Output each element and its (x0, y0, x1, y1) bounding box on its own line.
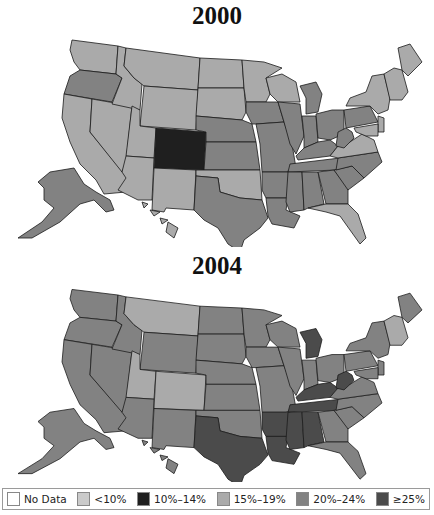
state-mi (300, 82, 322, 114)
legend-label: ≥25% (393, 493, 425, 505)
state-wa (70, 40, 118, 74)
state-ms (286, 412, 304, 449)
state-ky (296, 140, 338, 160)
state-nd (198, 58, 244, 88)
state-nj (378, 360, 384, 375)
us-map-2004 (0, 282, 434, 482)
state-nj (378, 116, 384, 132)
legend-swatch (217, 492, 230, 506)
state-fl (308, 204, 366, 244)
us-map-2000 (0, 32, 434, 247)
legend-label: <10% (94, 493, 126, 505)
state-wy (140, 332, 198, 373)
state-wi (266, 321, 300, 347)
legend-swatch (7, 492, 20, 506)
legend-item-ge25: ≥25% (376, 492, 425, 506)
map-title-2000: 2000 (0, 2, 434, 30)
legend-item-20-24: 20%–24% (296, 492, 365, 506)
legend-swatch (296, 492, 309, 506)
state-fl (308, 442, 366, 479)
legend-item-10-14: 10%–14% (137, 492, 206, 506)
state-co (154, 128, 206, 170)
legend-label: No Data (24, 493, 67, 505)
legend-swatch (77, 492, 90, 506)
legend-item-no-data: No Data (7, 492, 67, 506)
legend-item-lt10: <10% (77, 492, 126, 506)
state-wy (140, 86, 198, 130)
state-ia (246, 347, 284, 367)
state-ks (204, 384, 260, 410)
legend-label: 10%–14% (154, 493, 206, 505)
state-sd (196, 88, 246, 120)
legend-item-15-19: 15%–19% (217, 492, 286, 506)
legend-label: 20%–24% (313, 493, 365, 505)
state-nm (152, 409, 196, 450)
state-co (154, 371, 206, 410)
map-title-2004: 2004 (0, 252, 434, 280)
map-legend: No Data <10% 10%–14% 15%–19% 20%–24% ≥25… (2, 488, 430, 510)
state-ms (286, 172, 304, 212)
state-wi (266, 74, 300, 102)
state-sd (196, 334, 246, 364)
state-ar (262, 172, 290, 198)
state-ky (296, 382, 338, 401)
state-nm (152, 168, 196, 212)
legend-label: 15%–19% (234, 493, 286, 505)
legend-swatch (137, 492, 150, 506)
state-nd (198, 306, 244, 334)
state-ia (246, 102, 284, 124)
state-wa (70, 289, 118, 321)
state-mi (300, 329, 322, 359)
state-ks (204, 142, 260, 170)
legend-swatch (376, 492, 389, 506)
state-ar (262, 412, 290, 436)
